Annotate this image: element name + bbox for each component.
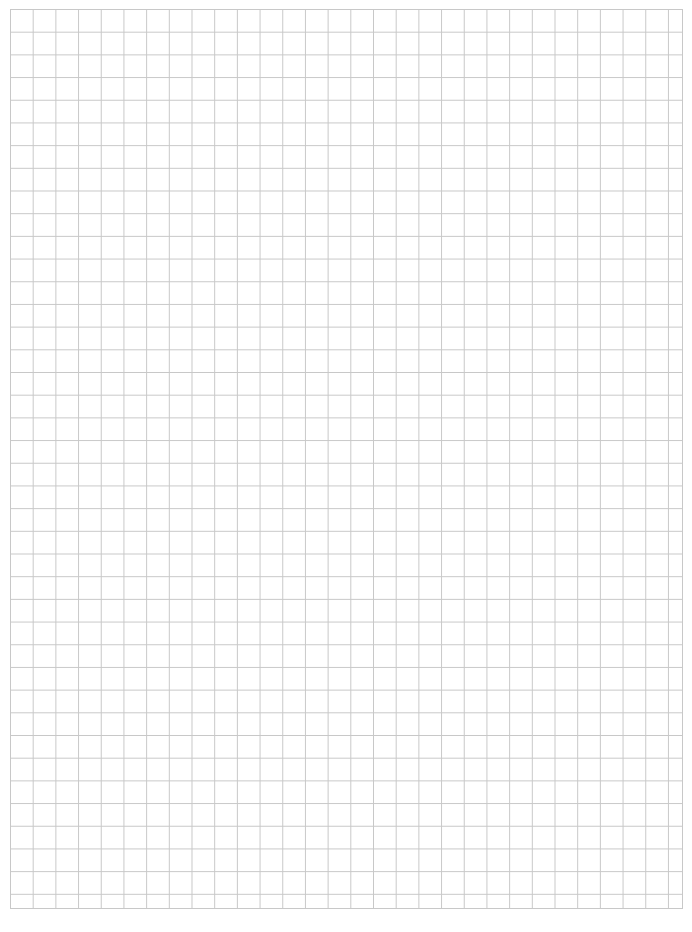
grid-paper <box>10 9 683 909</box>
